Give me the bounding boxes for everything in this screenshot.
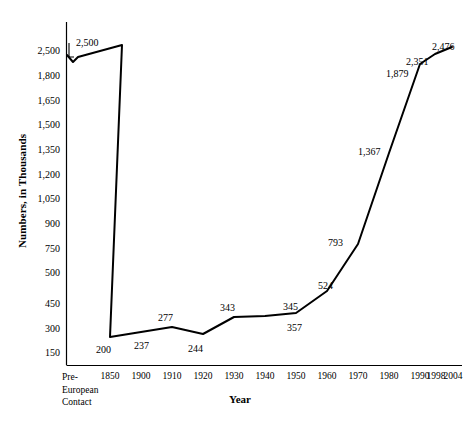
point-label-2004: 2,476 xyxy=(432,42,455,52)
callout-leader-line xyxy=(69,43,74,57)
y-tick-label-1650: 1,650 xyxy=(18,96,60,106)
point-label-1970: 793 xyxy=(328,238,343,248)
point-label-1930: 343 xyxy=(220,303,235,313)
point-label-1920: 244 xyxy=(188,344,203,354)
y-tick-label-1350: 1,350 xyxy=(18,145,60,155)
y-tick-label-300: 300 xyxy=(18,324,60,334)
point-label-1950: 357 xyxy=(287,323,302,333)
x-tick-label-pre-line3: Contact xyxy=(62,396,124,409)
y-tick-label-1050: 1,050 xyxy=(18,194,60,204)
y-tick-label-2500: 2,500 xyxy=(18,46,60,56)
y-tick-label-150: 150 xyxy=(18,348,60,358)
point-label-1980: 1,367 xyxy=(358,147,381,157)
point-label-1998: 2,351 xyxy=(406,57,429,67)
x-axis-title: Year xyxy=(140,393,340,405)
point-label-pre-european-contact: 2,500 xyxy=(76,38,99,48)
line-chart: Numbers, in Thousands Year 2,500 1,800 1… xyxy=(0,0,469,426)
x-tick-label-pre-line2: European xyxy=(62,384,124,397)
y-tick-label-1500: 1,500 xyxy=(18,120,60,130)
y-tick-label-450: 450 xyxy=(18,299,60,309)
point-label-1850: 200 xyxy=(96,345,111,355)
y-tick-label-500: 500 xyxy=(18,268,60,278)
point-label-1960: 524 xyxy=(318,281,333,291)
x-tick-label-2004: 2004 xyxy=(434,371,469,382)
point-label-1900: 237 xyxy=(134,341,149,351)
point-label-1990: 1,879 xyxy=(386,69,409,79)
data-line-series xyxy=(67,45,452,337)
y-tick-label-1800: 1,800 xyxy=(18,71,60,81)
y-tick-label-750: 750 xyxy=(18,244,60,254)
plot-area xyxy=(0,0,469,426)
y-tick-label-900: 900 xyxy=(18,219,60,229)
y-tick-label-1200: 1,200 xyxy=(18,170,60,180)
point-label-1910: 277 xyxy=(158,313,173,323)
point-label-1940: 345 xyxy=(283,302,298,312)
